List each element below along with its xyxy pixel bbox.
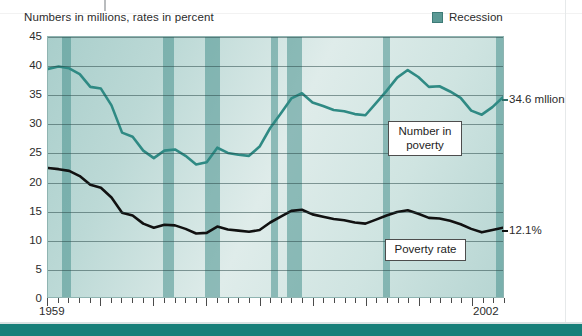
x-axis-tick [143,298,144,303]
x-axis-tick [430,298,431,303]
top-tick-mark [104,0,106,11]
x-axis-tick [79,298,80,303]
footer-bar [0,324,582,336]
legend-item-label: Recession [449,11,503,23]
y-axis: 454035302520151050 [0,36,42,298]
x-axis-tick [483,298,484,303]
x-axis-tick [175,298,176,303]
x-axis-tick [334,298,335,303]
y-axis-tick-label: 0 [4,292,42,304]
x-axis-tick [185,298,186,303]
x-axis-tick [355,298,356,303]
x-axis-tick [121,298,122,303]
x-axis-tick [451,298,452,303]
gridline [48,183,503,184]
x-axis-tick [345,298,346,303]
x-axis-tick [504,298,505,303]
x-axis-ticks [47,298,504,306]
x-axis-tick [196,298,197,303]
x-axis-tick [238,298,239,303]
x-axis-tick [100,298,101,306]
x-axis-tick [228,298,229,303]
x-axis-tick [493,298,494,303]
gridline [48,95,503,96]
x-axis-tick [270,298,271,303]
x-axis-tick [440,298,441,303]
x-axis-tick [398,298,399,303]
x-axis-tick [153,298,154,306]
x-axis-tick [291,298,292,303]
x-axis-tick [376,298,377,303]
series-line [48,168,503,233]
x-axis-tick [281,298,282,303]
legend: Recession [432,11,503,23]
chart-caption: Numbers in millions, rates in percent [24,11,214,23]
y-axis-tick-label: 10 [4,234,42,246]
x-axis-tick [217,298,218,303]
x-axis-end-label: 2002 [473,305,499,317]
x-axis-tick [111,298,112,303]
rate-endpoint-label: 12.1% [509,224,542,236]
gridline [48,66,503,67]
x-axis-tick [206,298,207,306]
y-axis-tick-label: 40 [4,59,42,71]
number-endpoint-marker [502,99,508,101]
x-axis-tick [249,298,250,303]
x-axis-tick [260,298,261,306]
gridline [48,37,503,38]
y-axis-tick-label: 20 [4,176,42,188]
x-axis-tick [313,298,314,306]
x-axis-tick [68,298,69,303]
x-axis-tick [132,298,133,303]
right-divider [565,0,566,322]
recession-swatch-icon [432,12,443,23]
x-axis-tick [323,298,324,303]
gridline [48,212,503,213]
y-axis-tick-label: 35 [4,88,42,100]
y-axis-tick-label: 30 [4,117,42,129]
x-axis-tick [419,298,420,306]
x-axis-tick [164,298,165,303]
y-axis-tick-label: 45 [4,30,42,42]
x-axis-tick [366,298,367,306]
y-axis-tick-label: 15 [4,205,42,217]
rate-endpoint-marker [502,230,508,232]
gridline [48,270,503,271]
number-endpoint-label: 34.6 mllion [509,93,565,105]
y-axis-tick-label: 25 [4,146,42,158]
x-axis-tick [302,298,303,303]
x-axis-tick [90,298,91,303]
annotation-number-in-poverty: Number in poverty [388,121,462,156]
y-axis-tick-label: 5 [4,263,42,275]
chart-page: Numbers in millions, rates in percent Re… [0,0,582,336]
x-axis-start-label: 1959 [39,305,65,317]
x-axis-tick [408,298,409,303]
x-axis-tick [387,298,388,303]
x-axis-tick [58,298,59,303]
x-axis-tick [461,298,462,303]
annotation-poverty-rate: Poverty rate [385,239,466,261]
